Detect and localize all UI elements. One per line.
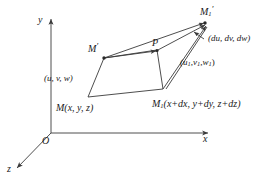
- vector-diagram-figure: y x z O M′ M1′ P M(x, y, z) M1(x+dx, y+d…: [0, 0, 273, 183]
- vector-label-uvw: (u, v, w): [44, 74, 73, 83]
- vector-Mprime-to-P: [104, 51, 156, 58]
- point-label-M1: M1(x+dx, y+dy, z+dz): [152, 99, 240, 110]
- edge-M-M1: [88, 89, 163, 97]
- dot-M1prime: [203, 21, 206, 24]
- edge-Mprime-M: [88, 58, 104, 97]
- z-axis-label: z: [7, 164, 11, 174]
- vector-label-dudvdw: (du, dv, dw): [208, 34, 250, 43]
- vector-group: [104, 23, 207, 89]
- origin-label: O: [42, 136, 49, 146]
- point-label-M-prime: M′: [88, 42, 98, 54]
- x-axis-label: x: [203, 134, 207, 144]
- prime-mark-M1: ′: [212, 4, 214, 14]
- y-axis-label: y: [38, 15, 42, 25]
- edge-M1-P: [157, 50, 163, 89]
- point-label-P: P: [152, 38, 158, 48]
- vector-label-u1v1w1: (u1,v1,w1): [180, 58, 215, 68]
- diagram-canvas: [0, 0, 273, 183]
- point-label-M1-coords: (x+dx, y+dy, z+dz): [164, 98, 241, 109]
- point-label-M1-prime: M1′: [200, 5, 214, 18]
- dot-P: [155, 49, 158, 52]
- point-label-M: M(x, y, z): [56, 103, 93, 113]
- u1v1w1-close: ): [212, 57, 215, 67]
- prime-mark-M: ′: [96, 41, 98, 51]
- parallelogram-group: [88, 50, 163, 97]
- dot-Mprime: [102, 56, 105, 59]
- point-label-M-coords: (x, y, z): [64, 102, 93, 113]
